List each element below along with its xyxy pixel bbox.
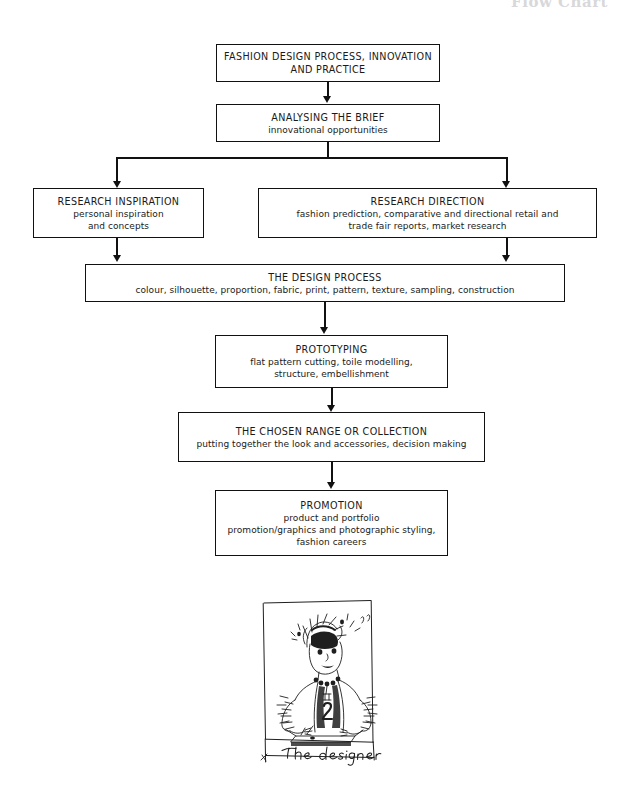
flowchart-page: Flow Chart FASHION DESIGN PROCESS, INNOV… — [0, 0, 626, 809]
node-analysing-the-brief: ANALYSING THE BRIEF innovational opportu… — [216, 104, 440, 142]
node-title: FASHION DESIGN PROCESS, INNOVATION AND P… — [224, 50, 432, 76]
connector-n3-n5 — [116, 238, 118, 256]
node-prototyping: PROTOTYPING flat pattern cutting, toile … — [215, 335, 448, 388]
node-subtitle: putting together the look and accessorie… — [196, 438, 466, 450]
connector-n4-n5 — [506, 238, 508, 256]
node-research-direction: RESEARCH DIRECTION fashion prediction, c… — [258, 188, 597, 238]
arrowhead-n6-n7 — [327, 405, 335, 412]
node-title: PROMOTION — [300, 499, 362, 512]
connector-n5-n6 — [324, 302, 326, 328]
node-research-inspiration: RESEARCH INSPIRATION personal inspiratio… — [33, 188, 204, 238]
arrowhead-n3-n5 — [113, 255, 121, 262]
node-subtitle: flat pattern cutting, toile modelling, s… — [250, 356, 413, 380]
connector-split-bus — [116, 157, 508, 159]
node-subtitle: innovational opportunities — [268, 124, 388, 136]
node-chosen-range-or-collection: THE CHOSEN RANGE OR COLLECTION putting t… — [178, 412, 485, 462]
node-subtitle: fashion prediction, comparative and dire… — [297, 208, 559, 232]
page-running-head: Flow Chart — [511, 0, 608, 11]
connector-n1-n2 — [327, 82, 329, 97]
connector-to-research-direction — [506, 157, 508, 182]
node-promotion: PROMOTION product and portfolio promotio… — [215, 490, 448, 556]
node-fashion-design-process: FASHION DESIGN PROCESS, INNOVATION AND P… — [216, 44, 440, 82]
node-the-design-process: THE DESIGN PROCESS colour, silhouette, p… — [85, 264, 565, 302]
node-subtitle: colour, silhouette, proportion, fabric, … — [136, 284, 515, 296]
node-title: THE DESIGN PROCESS — [268, 271, 381, 284]
connector-to-research-inspiration — [116, 157, 118, 182]
arrowhead-n5-n6 — [320, 327, 328, 334]
node-title: THE CHOSEN RANGE OR COLLECTION — [236, 425, 427, 438]
node-title: RESEARCH INSPIRATION — [58, 195, 180, 208]
node-subtitle: product and portfolio promotion/graphics… — [227, 512, 435, 548]
designer-sketch-svg — [255, 592, 390, 770]
connector-n7-n8 — [331, 462, 333, 483]
arrowhead-n7-n8 — [327, 482, 335, 489]
node-title: RESEARCH DIRECTION — [371, 195, 485, 208]
arrowhead-to-research-inspiration — [113, 181, 121, 188]
node-subtitle: personal inspiration and concepts — [73, 208, 163, 232]
arrowhead-n1-n2 — [323, 96, 331, 103]
designer-illustration — [255, 592, 390, 770]
arrowhead-n4-n5 — [502, 255, 510, 262]
node-title: ANALYSING THE BRIEF — [271, 111, 384, 124]
connector-n6-n7 — [331, 388, 333, 406]
node-title: PROTOTYPING — [295, 343, 367, 356]
arrowhead-to-research-direction — [502, 181, 510, 188]
